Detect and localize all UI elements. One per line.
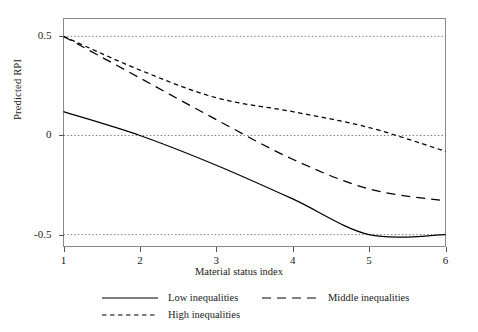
x-tick-mark <box>446 247 447 252</box>
legend-sample-short-dash-icon <box>100 310 160 320</box>
legend-row: High inequalities <box>100 306 430 323</box>
x-tick-mark <box>369 247 370 252</box>
legend-row: Low inequalities Middle inequalities <box>100 289 430 306</box>
y-tick-label: 0.5 <box>18 30 52 41</box>
x-tick-mark <box>293 247 294 252</box>
y-tick-label: -0.5 <box>18 229 52 240</box>
x-tick-label: 1 <box>52 254 76 266</box>
x-tick-mark <box>216 247 217 252</box>
legend-sample-solid-icon <box>100 293 160 303</box>
y-tick-mark <box>59 135 64 136</box>
legend-label-middle: Middle inequalities <box>328 292 409 303</box>
x-tick-label: 6 <box>434 254 458 266</box>
y-axis-title: Predicted RPI <box>12 35 23 145</box>
figure: 0.50-0.5 Predicted RPI 123456 Material s… <box>0 0 478 332</box>
x-tick-label: 5 <box>357 254 381 266</box>
x-tick-label: 2 <box>128 254 152 266</box>
x-axis-title: Material status index <box>0 266 478 277</box>
legend-item-middle: Middle inequalities <box>260 292 409 303</box>
x-tick-label: 3 <box>204 254 228 266</box>
y-tick-mark <box>59 36 64 37</box>
x-tick-label: 4 <box>281 254 305 266</box>
legend-item-low: Low inequalities <box>100 292 260 303</box>
x-tick-mark <box>140 247 141 252</box>
y-tick-label: 0 <box>18 129 52 140</box>
legend: Low inequalities Middle inequalities Hig… <box>100 289 430 323</box>
legend-label-low: Low inequalities <box>168 292 238 303</box>
plot-area <box>63 18 446 247</box>
legend-sample-long-dash-icon <box>260 293 320 303</box>
legend-label-high: High inequalities <box>168 309 240 320</box>
legend-item-high: High inequalities <box>100 309 260 320</box>
y-tick-mark <box>59 235 64 236</box>
x-tick-mark <box>64 247 65 252</box>
